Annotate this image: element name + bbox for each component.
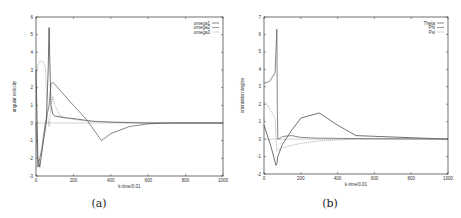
x-tick-label: 1000 [443, 176, 454, 181]
y-tick-label: 0 [258, 137, 261, 142]
legend-label: omega3 [194, 30, 211, 35]
x-axis-label: k-time/0.01 [118, 184, 141, 189]
y-tick-label: -1 [29, 138, 33, 143]
x-tick-label: 1000 [218, 178, 229, 183]
x-tick-label: 200 [70, 178, 78, 183]
series-line-omega2 [36, 82, 223, 167]
plot-frame [264, 17, 448, 174]
y-tick-label: 6 [258, 32, 261, 37]
y-axis-label: orientation angles [240, 77, 245, 113]
y-tick-label: 5 [30, 32, 33, 37]
y-tick-label: 1 [30, 103, 33, 108]
y-tick-label: -3 [29, 174, 33, 179]
y-tick-label: 5 [258, 49, 261, 54]
series-line-omega1 [36, 28, 223, 168]
figure-b: 02004006008001000-2-101234567k-time/0.01… [230, 0, 461, 218]
chart-b: 02004006008001000-2-101234567k-time/0.01… [230, 0, 461, 218]
plot-frame [36, 17, 223, 176]
y-tick-label: -1 [257, 154, 261, 159]
series-line-omega3 [36, 61, 223, 126]
x-tick-label: 400 [107, 178, 115, 183]
y-tick-label: 6 [30, 15, 33, 20]
caption-b: (b) [310, 197, 350, 210]
x-tick-label: 600 [371, 176, 379, 181]
figure-a: 02004006008001000-3-2-10123456k-time/0.0… [0, 0, 230, 218]
x-tick-label: 400 [334, 176, 342, 181]
y-tick-label: 2 [30, 85, 33, 90]
x-tick-label: 200 [297, 176, 305, 181]
y-tick-label: 3 [30, 68, 33, 73]
y-tick-label: 4 [30, 50, 33, 55]
y-tick-label: 2 [258, 102, 261, 107]
x-tick-label: 0 [35, 178, 38, 183]
x-tick-label: 600 [144, 178, 152, 183]
caption-a: (a) [79, 197, 119, 210]
y-axis-label: angular velocity [12, 80, 17, 112]
y-tick-label: -2 [29, 156, 33, 161]
y-tick-label: -2 [257, 172, 261, 177]
legend-label: Psi [429, 30, 435, 35]
y-tick-label: 0 [30, 121, 33, 126]
y-tick-label: 1 [258, 119, 261, 124]
y-tick-label: 4 [258, 67, 261, 72]
x-axis-label: k-time/0.01 [345, 182, 368, 187]
x-tick-label: 800 [407, 176, 415, 181]
x-tick-label: 0 [263, 176, 266, 181]
y-tick-label: 3 [258, 84, 261, 89]
series-line-psi [264, 102, 448, 151]
x-tick-label: 800 [182, 178, 190, 183]
chart-a: 02004006008001000-3-2-10123456k-time/0.0… [0, 0, 230, 218]
y-tick-label: 7 [258, 15, 261, 20]
series-line-phi [264, 29, 448, 139]
